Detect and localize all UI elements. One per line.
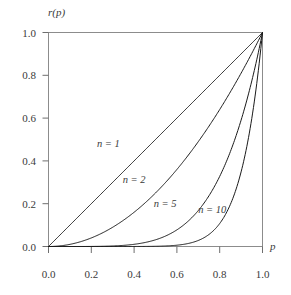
y-tick-label: 0.6	[22, 112, 36, 124]
x-tick-label: 1.0	[256, 268, 270, 280]
x-tick-label: 0.8	[213, 268, 227, 280]
curve-annotation: n = 2	[123, 174, 147, 185]
y-tick-label: 1.0	[22, 27, 36, 39]
y-tick-label: 0.8	[22, 69, 36, 81]
y-tick-label: 0.0	[22, 241, 36, 253]
plot-figure: r(p) p 0.0 0.2 0.4 0.6 0.8 1.0 0.0 0.2 0…	[0, 0, 291, 295]
curve-annotation: n = 10	[198, 204, 227, 215]
y-axis-label: r(p)	[48, 6, 65, 19]
x-axis-label: p	[269, 240, 276, 252]
curve-annotation: n = 5	[154, 198, 177, 209]
figure-background	[0, 0, 291, 295]
x-tick-label: 0.4	[127, 268, 141, 280]
y-tick-label: 0.4	[22, 155, 36, 167]
x-tick-label: 0.6	[170, 268, 184, 280]
y-tick-label: 0.2	[22, 198, 36, 210]
curve-annotation: n = 1	[97, 138, 120, 149]
x-tick-label: 0.0	[42, 268, 56, 280]
x-tick-label: 0.2	[84, 268, 98, 280]
